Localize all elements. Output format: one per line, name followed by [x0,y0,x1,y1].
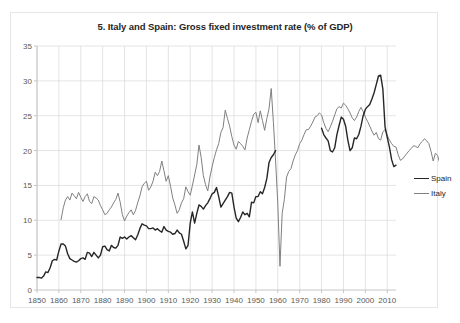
svg-text:10: 10 [23,216,32,225]
svg-text:1880: 1880 [94,296,112,305]
tick-marks [34,46,387,293]
svg-text:1900: 1900 [138,296,156,305]
svg-text:1870: 1870 [72,296,90,305]
legend-item-italy: Italy [414,186,460,201]
svg-text:15: 15 [23,181,32,190]
svg-text:20: 20 [23,147,32,156]
axis-lines [37,46,396,290]
svg-text:1960: 1960 [269,296,287,305]
svg-text:1910: 1910 [159,296,177,305]
legend-swatch-italy [414,193,429,194]
chart-legend: Spain Italy [414,171,460,201]
data-series-lines [37,75,439,278]
gridlines [37,46,396,290]
chart-plot-area: 05101520253035 1850186018701880189019001… [11,13,439,309]
svg-text:1970: 1970 [291,296,309,305]
svg-text:1950: 1950 [247,296,265,305]
legend-swatch-spain [414,178,429,179]
svg-text:2000: 2000 [356,296,374,305]
svg-text:0: 0 [28,286,33,295]
svg-text:1850: 1850 [28,296,46,305]
legend-label-spain: Spain [431,175,451,183]
svg-text:25: 25 [23,112,32,121]
svg-text:1930: 1930 [203,296,221,305]
y-axis-tick-labels: 05101520253035 [23,42,32,295]
svg-text:1920: 1920 [181,296,199,305]
svg-text:1890: 1890 [116,296,134,305]
svg-text:5: 5 [28,251,33,260]
series-line-spain [37,151,276,279]
svg-text:35: 35 [23,42,32,51]
x-axis-tick-labels: 1850186018701880189019001910192019301940… [28,296,397,305]
svg-text:30: 30 [23,77,32,86]
legend-label-italy: Italy [431,190,446,198]
series-line-italy [61,89,439,267]
svg-text:1980: 1980 [313,296,331,305]
svg-text:1990: 1990 [335,296,353,305]
legend-item-spain: Spain [414,171,460,186]
svg-text:1860: 1860 [50,296,68,305]
svg-text:2010: 2010 [378,296,396,305]
chart-figure: 5. Italy and Spain: Gross fixed investme… [10,12,438,308]
svg-text:1940: 1940 [225,296,243,305]
